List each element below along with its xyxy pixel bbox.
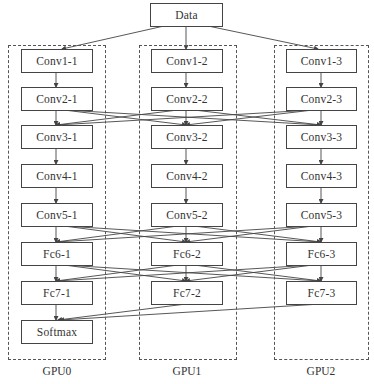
- node-conv4-3: Conv4-3: [286, 164, 357, 188]
- node-fc6-3: Fc6-3: [286, 242, 357, 266]
- node-conv3-3: Conv3-3: [286, 125, 357, 149]
- node-conv1-2: Conv1-2: [151, 49, 223, 73]
- node-fc6-1: Fc6-1: [21, 242, 93, 266]
- node-conv4-1: Conv4-1: [21, 164, 93, 188]
- gpu0-label: GPU0: [17, 365, 97, 377]
- node-conv2-3: Conv2-3: [286, 87, 357, 111]
- node-conv5-1: Conv5-1: [21, 203, 93, 227]
- gpu2-label: GPU2: [281, 365, 361, 377]
- node-fc7-2: Fc7-2: [151, 281, 223, 305]
- gpu1-label: GPU1: [147, 365, 227, 377]
- node-fc7-3: Fc7-3: [286, 281, 357, 305]
- node-conv5-2: Conv5-2: [151, 203, 223, 227]
- node-conv1-1: Conv1-1: [21, 49, 93, 73]
- data-node: Data: [150, 3, 223, 27]
- node-softmax: Softmax: [21, 320, 93, 344]
- node-fc7-1: Fc7-1: [21, 281, 93, 305]
- node-conv2-1: Conv2-1: [21, 87, 93, 111]
- node-conv1-3: Conv1-3: [286, 49, 357, 73]
- node-conv2-2: Conv2-2: [151, 87, 223, 111]
- node-conv5-3: Conv5-3: [286, 203, 357, 227]
- node-conv3-2: Conv3-2: [151, 125, 223, 149]
- node-conv4-2: Conv4-2: [151, 164, 223, 188]
- node-fc6-2: Fc6-2: [151, 242, 223, 266]
- node-conv3-1: Conv3-1: [21, 125, 93, 149]
